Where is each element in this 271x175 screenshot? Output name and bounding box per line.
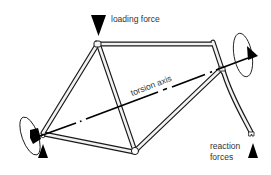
- reaction-force-front-arrow-icon: [248, 143, 258, 158]
- fork-dropout: [249, 132, 254, 136]
- reaction-forces-label-line1: reaction: [210, 141, 241, 151]
- torsion-rotation-front: [230, 32, 258, 78]
- bottom-bracket: [131, 147, 138, 154]
- bicycle-frame-torsion-diagram: loading force torsion axis reaction forc…: [0, 0, 271, 175]
- reaction-forces-label-line2: forces: [210, 152, 233, 162]
- rotation-arrowhead-front-icon: [247, 46, 258, 60]
- torsion-axis-line: [40, 58, 248, 136]
- loading-force-arrow-icon: [91, 15, 106, 36]
- loading-force-label: loading force: [111, 14, 160, 24]
- seat-cluster: [94, 41, 101, 47]
- torsion-rotation-rear: [16, 114, 45, 157]
- bicycle-frame: [41, 41, 254, 155]
